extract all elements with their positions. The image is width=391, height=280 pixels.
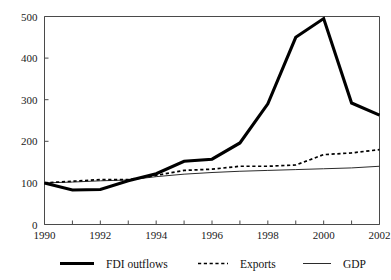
x-axis-ticks	[45, 221, 380, 225]
chart-legend: FDI outflows Exports GDP	[60, 258, 366, 271]
x-tick-label: 2000	[313, 229, 336, 241]
x-tick-label: 1994	[145, 229, 168, 241]
x-tick-label: 1998	[257, 229, 280, 241]
legend-item-gdp[interactable]: GDP	[303, 258, 366, 270]
plot-frame	[45, 17, 380, 225]
legend-item-fdi-outflows[interactable]: FDI outflows	[60, 258, 168, 270]
x-tick-label: 2002	[369, 229, 391, 241]
y-axis-tick-labels: 0100200300400500	[21, 11, 38, 231]
y-tick-label: 400	[21, 52, 38, 64]
legend-item-exports[interactable]: Exports	[198, 258, 276, 271]
x-tick-label: 1992	[89, 229, 111, 241]
y-tick-label: 300	[21, 94, 38, 106]
chart-container: 0100200300400500 19901992199419961998200…	[0, 0, 391, 280]
legend-label-gdp: GDP	[343, 258, 366, 270]
line-chart: 0100200300400500 19901992199419961998200…	[0, 0, 391, 280]
x-tick-label: 1996	[201, 229, 224, 241]
series-line-fdi-outflows	[45, 19, 380, 190]
y-axis-ticks	[45, 17, 49, 225]
y-tick-label: 500	[21, 11, 38, 23]
legend-label-exports: Exports	[240, 258, 276, 271]
y-tick-label: 100	[21, 177, 38, 189]
legend-label-fdi-outflows: FDI outflows	[106, 258, 168, 270]
x-tick-label: 1990	[34, 229, 57, 241]
y-tick-label: 200	[21, 135, 38, 147]
series-line-exports	[45, 150, 380, 183]
x-axis-tick-labels: 1990199219941996199820002002	[34, 229, 391, 241]
